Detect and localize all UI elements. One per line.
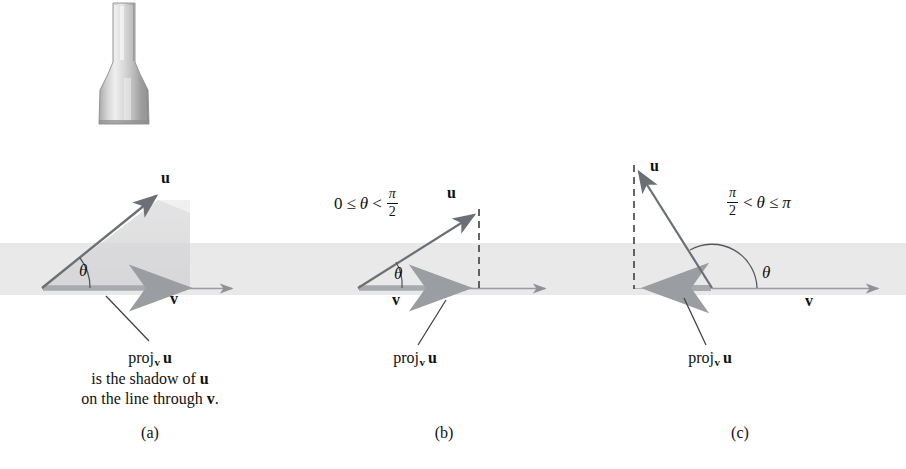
panel-b-label-u: u bbox=[447, 185, 456, 201]
panel-b-proj-argument: u bbox=[425, 349, 437, 366]
panel-c-proj-expression: projvu bbox=[615, 348, 805, 369]
panel-c-label-theta: θ bbox=[762, 264, 770, 281]
panel-c-ineq-rel2: ≤ bbox=[769, 194, 778, 211]
panel-c-caption: projvu bbox=[615, 348, 805, 369]
panel-b-frac-denominator: 2 bbox=[387, 205, 398, 220]
panel-a-label-theta: θ bbox=[79, 262, 87, 279]
panel-a-caption: projvu is the shadow of u on the line th… bbox=[18, 348, 282, 409]
panel-b-ineq-fraction: π 2 bbox=[387, 187, 398, 220]
panel-b-frac-numerator: π bbox=[387, 187, 398, 202]
panel-c-label-u: u bbox=[650, 158, 659, 174]
panel-a-leader-line bbox=[106, 296, 149, 341]
panel-c-ineq-rhs: π bbox=[782, 194, 791, 211]
panel-c-ineq-fraction: π 2 bbox=[727, 186, 738, 219]
panel-c-proj-argument: u bbox=[720, 349, 732, 366]
panel-a-art bbox=[42, 196, 232, 341]
panel-a-proj-expression: projvu bbox=[18, 348, 282, 369]
projection-figure: u v θ projvu is the shadow of u on the l… bbox=[0, 0, 906, 469]
panel-c-vector-u bbox=[639, 172, 712, 288]
panel-a-letter: (a) bbox=[120, 424, 180, 442]
panel-a-caption-line2: is the shadow of u bbox=[18, 369, 282, 389]
panel-a-proj-argument: u bbox=[160, 349, 172, 366]
panel-b-label-v: v bbox=[392, 292, 400, 308]
panel-b-ineq-rel1: ≤ bbox=[347, 195, 356, 212]
panel-b-ineq-rel2: < bbox=[372, 195, 382, 212]
flashlight-icon bbox=[99, 3, 149, 124]
panel-a-label-v: v bbox=[170, 291, 178, 307]
panel-c-inequality: π 2 < θ ≤ π bbox=[726, 186, 791, 219]
panel-c-ineq-rel1: < bbox=[743, 194, 753, 211]
panel-c-proj-prefix: proj bbox=[688, 349, 714, 366]
panel-b-leader-line bbox=[418, 300, 446, 345]
panel-c-ineq-var: θ bbox=[757, 194, 765, 211]
panel-c-frac-denominator: 2 bbox=[727, 204, 738, 219]
panel-c-theta-arc bbox=[690, 244, 757, 288]
panel-c-frac-numerator: π bbox=[727, 186, 738, 201]
panel-c-label-v: v bbox=[805, 293, 813, 309]
panel-b-caption: projvu bbox=[320, 348, 510, 369]
panel-b-ineq-var: θ bbox=[360, 195, 368, 212]
panel-b-inequality: 0 ≤ θ < π 2 bbox=[334, 187, 399, 220]
panel-c-leader-line bbox=[684, 298, 706, 345]
panel-b-letter: (b) bbox=[414, 424, 474, 442]
panel-b-proj-prefix: proj bbox=[393, 349, 419, 366]
panel-c-letter: (c) bbox=[710, 424, 770, 442]
panel-b-ineq-lhs: 0 bbox=[334, 195, 343, 212]
panel-a-label-u: u bbox=[161, 170, 170, 186]
panel-b-label-theta: θ bbox=[394, 265, 402, 282]
panel-b-art bbox=[358, 209, 545, 345]
panel-a-proj-prefix: proj bbox=[128, 349, 154, 366]
panel-b-vector-u bbox=[358, 215, 474, 288]
panel-b-proj-expression: projvu bbox=[320, 348, 510, 369]
panel-a-caption-line3: on the line through v. bbox=[18, 389, 282, 409]
